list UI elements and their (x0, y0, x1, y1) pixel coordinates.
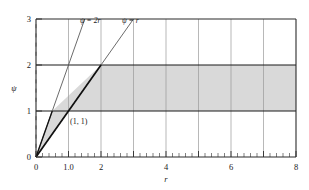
curve-label-psi-2r: ψ = 2r (80, 16, 100, 25)
x-tick-label-8: 8 (294, 162, 298, 172)
x-tick-label-0: 0 (34, 162, 38, 172)
x-tick-label-6: 6 (229, 162, 233, 172)
chart-svg: 0 1.0 2 4 6 8 0 1 2 3 r ψ ψ = 2r ψ = r (… (0, 0, 309, 190)
chart-figure: 0 1.0 2 4 6 8 0 1 2 3 r ψ ψ = 2r ψ = r (… (0, 0, 309, 190)
y-tick-label-1: 1 (27, 106, 31, 116)
y-tick-label-2: 2 (27, 60, 31, 70)
curve-label-psi-r: ψ = r (122, 16, 139, 25)
y-axis-title: ψ (11, 83, 17, 93)
annotation-point-1-1: (1, 1) (70, 117, 88, 126)
x-tick-label-1: 1.0 (63, 162, 74, 172)
y-tick-label-0: 0 (27, 152, 31, 162)
x-tick-label-2: 2 (99, 162, 103, 172)
y-tick-label-3: 3 (27, 14, 31, 24)
